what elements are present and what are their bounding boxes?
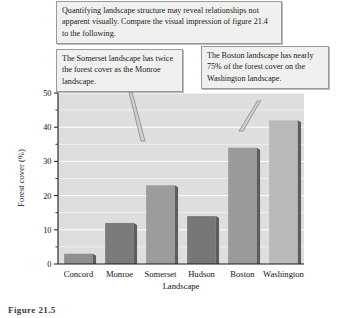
bar-somerset [146, 183, 178, 264]
x-category-label: Washington [263, 269, 305, 279]
x-axis-title: Landscape [163, 281, 200, 291]
x-category-label: Monroe [106, 269, 133, 279]
y-tick-label: 30 [43, 157, 51, 166]
forest-cover-bar-chart: 01020304050 ConcordMonroeSomersetHudsonB… [0, 0, 341, 300]
bar-washington [269, 118, 301, 264]
bar-face [187, 216, 216, 264]
bar-side-shadow [216, 216, 219, 264]
bar-face [269, 120, 298, 264]
callout-boston-text: The Boston landscape has nearly 75% of t… [207, 51, 314, 83]
y-tick-label: 10 [43, 226, 51, 235]
callout-boston: The Boston landscape has nearly 75% of t… [201, 46, 329, 89]
bar-monroe [105, 221, 137, 264]
bar-side-shadow [298, 120, 301, 264]
x-category-label: Boston [230, 269, 255, 279]
x-category-label: Concord [64, 269, 94, 279]
bar-side-shadow [257, 148, 260, 264]
y-tick-label: 50 [43, 89, 51, 98]
bar-face [146, 185, 175, 264]
bar-face [228, 148, 257, 264]
callout-top-text: Quantifying landscape structure may reve… [62, 6, 268, 38]
bar-side-shadow [134, 223, 137, 264]
callout-somerset-text: The Somerset landscape has twice the for… [62, 54, 173, 86]
bar-concord [64, 252, 96, 264]
figure-caption: Figure 21.5 [8, 305, 56, 315]
bar-hudson [187, 214, 219, 264]
y-axis-ticks: 01020304050 [43, 89, 58, 269]
bar-face [105, 223, 134, 264]
y-tick-label: 20 [43, 192, 51, 201]
bar-boston [228, 146, 260, 264]
callout-top: Quantifying landscape structure may reve… [56, 1, 282, 44]
bar-face [64, 254, 93, 264]
x-category-label: Hudson [188, 269, 215, 279]
bar-side-shadow [175, 185, 178, 264]
y-tick-label: 40 [43, 123, 51, 132]
callout-somerset: The Somerset landscape has twice the for… [56, 49, 183, 92]
y-axis-title: Forest cover (%) [16, 149, 26, 207]
x-axis-category-labels: ConcordMonroeSomersetHudsonBostonWashing… [64, 269, 305, 279]
x-category-label: Somerset [145, 269, 178, 279]
y-tick-label: 0 [47, 260, 51, 269]
